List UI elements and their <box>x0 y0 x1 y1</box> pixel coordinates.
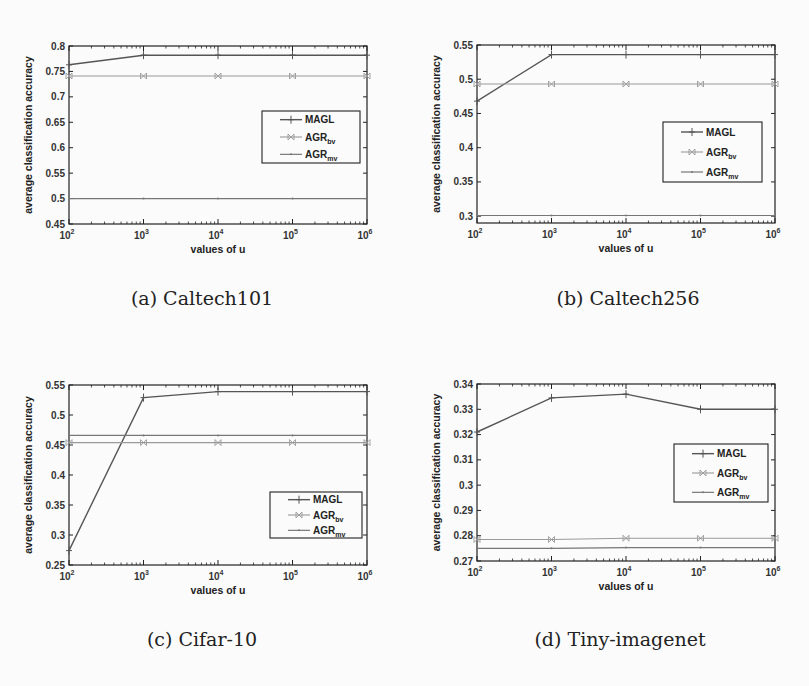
x-tick-label: 104 <box>616 565 631 578</box>
x-tick-label: 102 <box>467 565 482 578</box>
y-tick-label: 0.32 <box>454 429 474 440</box>
chart-caption: (d) Tiny-imagenet <box>418 628 809 650</box>
dot-marker <box>700 547 702 549</box>
series-agr-mv <box>476 547 776 550</box>
dot-marker <box>774 547 776 549</box>
chart-panel-tiny-imagenet: 0.270.280.290.30.310.320.330.34102103104… <box>0 0 809 343</box>
dot-marker <box>551 547 553 549</box>
x-tick-label: 106 <box>765 565 780 578</box>
y-tick-label: 0.33 <box>454 404 474 415</box>
y-tick-label: 0.27 <box>454 556 474 567</box>
dot-marker <box>625 547 627 549</box>
legend-label: MAGL <box>717 448 746 459</box>
series-agr-bv <box>474 535 778 542</box>
y-tick-label: 0.29 <box>454 505 474 516</box>
dot-marker <box>476 547 478 549</box>
series-line <box>477 394 775 432</box>
x-axis-label: values of u <box>599 580 654 592</box>
y-tick-label: 0.34 <box>454 379 474 390</box>
series-magl <box>474 390 778 436</box>
y-axis-label: average classification accuracy <box>430 394 442 552</box>
y-tick-label: 0.3 <box>459 480 473 491</box>
dot-marker <box>702 491 704 493</box>
x-tick-label: 103 <box>542 565 557 578</box>
chart-legend: MAGLAGRbvAGRmv <box>674 444 768 502</box>
y-tick-label: 0.31 <box>454 454 474 465</box>
x-tick-label: 105 <box>691 565 706 578</box>
y-tick-label: 0.28 <box>454 530 474 541</box>
chart-svg: 0.270.280.290.30.310.320.330.34102103104… <box>0 0 809 686</box>
